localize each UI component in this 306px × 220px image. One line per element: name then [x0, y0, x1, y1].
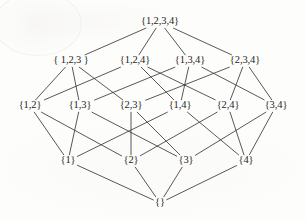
hasse-diagram-page: {1,2,3,4}{ 1,2,3 }{1,2,4}{1,3,4}{2,3,4}{…: [0, 0, 306, 220]
lattice-edge: [164, 167, 182, 197]
lattice-node-2: {2}: [123, 154, 138, 165]
lattice-edge: [69, 112, 78, 155]
lattice-node-234: {2,3,4}: [230, 54, 260, 65]
lattice-node-4: {4}: [238, 154, 253, 165]
powerset-lattice-diagram: {1,2,3,4}{ 1,2,3 }{1,2,4}{1,3,4}{2,3,4}{…: [0, 0, 306, 220]
lattice-edge: [77, 112, 167, 156]
lattice-edge: [135, 167, 155, 197]
lattice-edge: [202, 67, 264, 100]
lattice-edge: [139, 28, 156, 55]
lattice-node-12: {1,2}: [19, 99, 42, 110]
lattice-node-24: {2,4}: [217, 99, 240, 110]
lattice-edge: [92, 112, 177, 156]
lattice-edge: [77, 165, 153, 200]
lattice-node-124: {1,2,4}: [120, 54, 150, 65]
lattice-node-3: {3}: [178, 154, 193, 165]
lattice-node-13: {1,3}: [69, 99, 92, 110]
lattice-node-34: {3,4}: [265, 99, 288, 110]
lattice-edge: [36, 67, 66, 100]
lattice-edge: [249, 67, 271, 100]
lattice-edge: [44, 67, 120, 100]
lattice-edge: [167, 166, 237, 200]
lattice-edge: [95, 67, 175, 100]
lattice-node-full: {1,2,3,4}: [141, 15, 179, 26]
lattice-node-23: {2,3}: [120, 99, 143, 110]
lattice-edge: [137, 112, 180, 155]
lattice-node-1: {1}: [60, 154, 75, 165]
lattice-edge: [34, 112, 63, 155]
lattice-edge: [79, 67, 122, 100]
lattice-node-134: {1,3,4}: [175, 54, 205, 65]
lattice-edge: [41, 112, 121, 156]
lattice-edge: [85, 28, 146, 55]
lattice-node-empty: {}: [155, 196, 165, 207]
node-layer: {1,2,3,4}{ 1,2,3 }{1,2,4}{1,3,4}{2,3,4}{…: [19, 15, 288, 207]
lattice-edge: [230, 112, 244, 155]
lattice-node-14: {1,4}: [169, 99, 192, 110]
lattice-edge: [72, 67, 79, 100]
lattice-node-123: { 1,2,3 }: [53, 54, 88, 65]
lattice-edge: [249, 112, 272, 155]
